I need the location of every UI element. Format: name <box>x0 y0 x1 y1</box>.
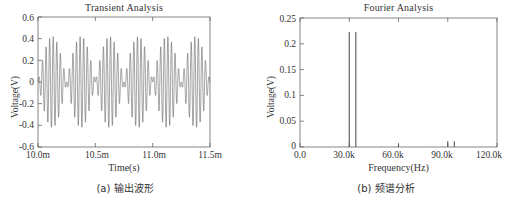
figure-root: Transient Analysis Voltage(V) 0.6 0.4 0.… <box>0 0 512 206</box>
x-axis-label-fourier: Frequency(Hz) <box>300 162 497 173</box>
panel-caption-fourier: (b) 频谱分析 <box>286 180 486 195</box>
panel-fourier-analysis: Fourier Analysis Voltage(V) 0.25 0.2 0.1… <box>256 0 512 206</box>
panel-transient-analysis: Transient Analysis Voltage(V) 0.6 0.4 0.… <box>0 0 256 206</box>
plot-area-transient <box>0 0 256 206</box>
x-axis-label-transient: Time(s) <box>38 162 210 173</box>
plot-area-fourier <box>256 0 512 206</box>
panel-caption-transient: (a) 输出波形 <box>20 180 230 195</box>
